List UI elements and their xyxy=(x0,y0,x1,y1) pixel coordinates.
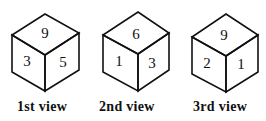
cube-1-drawing: 6 3 5 xyxy=(0,0,90,100)
cube-3-left-number: 2 xyxy=(203,55,211,71)
cube-2-right-number: 3 xyxy=(148,55,156,71)
cube-3rd-view: 9 2 1 3rd view xyxy=(176,0,266,121)
cube-2nd-view: 6 1 3 2nd view xyxy=(88,0,178,121)
cube-1-top-number: 6 xyxy=(41,25,49,41)
cube-1-caption: 1st view xyxy=(17,99,67,115)
cube-3-top-number: 9 xyxy=(220,27,228,43)
cube-1-right-number: 5 xyxy=(59,54,67,70)
cube-1-left-number: 3 xyxy=(23,53,31,69)
cube-2-top-number: 6 xyxy=(132,26,140,42)
cube-3-drawing: 9 2 1 xyxy=(176,0,266,100)
cube-2-caption: 2nd view xyxy=(99,99,155,115)
cube-1st-view: 6 3 5 1st view xyxy=(0,0,90,121)
cube-3-right-number: 1 xyxy=(237,56,245,72)
cube-2-left-number: 1 xyxy=(115,53,123,69)
cube-2-drawing: 6 1 3 xyxy=(88,0,178,100)
cube-3-caption: 3rd view xyxy=(193,99,247,115)
